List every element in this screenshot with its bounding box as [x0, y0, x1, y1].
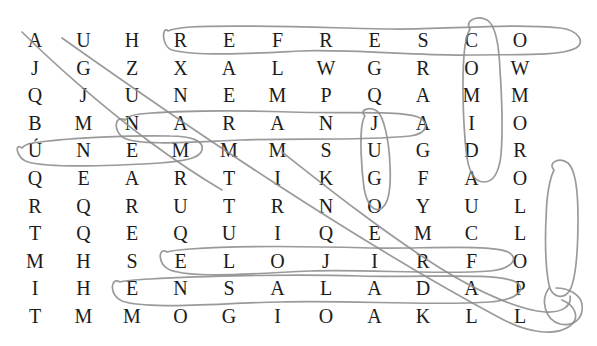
grid-letter: I	[358, 247, 392, 275]
grid-letter: O	[309, 302, 343, 330]
grid-letter: T	[212, 192, 246, 220]
grid-letter: P	[309, 81, 343, 109]
grid-letter: Q	[67, 219, 101, 247]
grid-letter: M	[406, 219, 440, 247]
grid-letter: E	[164, 247, 198, 275]
grid-letter: D	[406, 274, 440, 302]
grid-letter: E	[115, 136, 149, 164]
grid-letter: N	[164, 274, 198, 302]
grid-letter: I	[261, 164, 295, 192]
grid-letter: M	[67, 302, 101, 330]
grid-letter: F	[406, 164, 440, 192]
grid-letter: Q	[164, 219, 198, 247]
grid-row: MHSELOJIRFO	[0, 247, 597, 275]
grid-letter: A	[261, 274, 295, 302]
grid-letter: R	[406, 247, 440, 275]
grid-letter: E	[358, 219, 392, 247]
grid-letter: L	[503, 219, 537, 247]
grid-letter: M	[212, 136, 246, 164]
grid-letter: K	[406, 302, 440, 330]
grid-letter: U	[67, 26, 101, 54]
grid-letter: I	[261, 302, 295, 330]
grid-letter: I	[18, 274, 52, 302]
grid-letter: O	[503, 109, 537, 137]
grid-letter: H	[67, 247, 101, 275]
grid-letter: J	[358, 109, 392, 137]
grid-row: QEARTIKGFAO	[0, 164, 597, 192]
grid-letter: G	[67, 54, 101, 82]
grid-letter: M	[503, 81, 537, 109]
grid-letter: J	[18, 54, 52, 82]
grid-letter: E	[115, 219, 149, 247]
grid-row: IHENSALADAP	[0, 274, 597, 302]
grid-letter: L	[309, 274, 343, 302]
grid-letter: A	[18, 26, 52, 54]
grid-letter: E	[67, 164, 101, 192]
grid-letter: P	[503, 274, 537, 302]
grid-letter: U	[358, 136, 392, 164]
grid-row: JGZXALWGROW	[0, 54, 597, 82]
grid-letter: Z	[115, 54, 149, 82]
grid-letter: B	[18, 109, 52, 137]
grid-letter: A	[212, 54, 246, 82]
grid-letter: L	[503, 192, 537, 220]
grid-letter: J	[309, 247, 343, 275]
grid-letter: I	[261, 219, 295, 247]
grid-letter: F	[455, 247, 489, 275]
grid-letter: A	[358, 302, 392, 330]
grid-letter: N	[164, 81, 198, 109]
grid-letter: Ú	[18, 136, 52, 164]
grid-letter: T	[18, 219, 52, 247]
grid-letter: N	[309, 109, 343, 137]
grid-letter: M	[455, 81, 489, 109]
grid-letter: E	[358, 26, 392, 54]
grid-letter: E	[212, 26, 246, 54]
grid-letter: L	[503, 302, 537, 330]
grid-letter: N	[309, 192, 343, 220]
grid-letter: L	[212, 247, 246, 275]
grid-letter: O	[503, 26, 537, 54]
grid-letter: E	[115, 274, 149, 302]
grid-letter: R	[115, 192, 149, 220]
grid-letter: A	[455, 164, 489, 192]
grid-letter: U	[164, 192, 198, 220]
grid-row: QJUNEMPQAMM	[0, 81, 597, 109]
grid-letter: W	[503, 54, 537, 82]
grid-letter: S	[115, 247, 149, 275]
grid-letter: M	[115, 302, 149, 330]
grid-letter: R	[503, 136, 537, 164]
grid-letter: K	[309, 164, 343, 192]
grid-letter: O	[261, 247, 295, 275]
grid-letter: Q	[67, 192, 101, 220]
grid-letter: R	[261, 192, 295, 220]
grid-letter: C	[455, 219, 489, 247]
grid-letter: R	[164, 164, 198, 192]
grid-letter: M	[261, 136, 295, 164]
grid-letter: R	[164, 26, 198, 54]
grid-row: AUHREFRESCO	[0, 26, 597, 54]
grid-row: BMNARANJAIO	[0, 109, 597, 137]
grid-letter: S	[406, 26, 440, 54]
grid-letter: G	[358, 54, 392, 82]
grid-letter: A	[164, 109, 198, 137]
grid-letter: O	[358, 192, 392, 220]
grid-letter: M	[18, 247, 52, 275]
grid-letter: N	[115, 109, 149, 137]
grid-letter: X	[164, 54, 198, 82]
grid-letter: S	[309, 136, 343, 164]
grid-letter: T	[18, 302, 52, 330]
grid-letter: O	[455, 54, 489, 82]
grid-letter: M	[67, 109, 101, 137]
grid-letter: H	[67, 274, 101, 302]
grid-letter: Q	[309, 219, 343, 247]
grid-letter: F	[261, 26, 295, 54]
grid-letter: G	[212, 302, 246, 330]
grid-letter: D	[455, 136, 489, 164]
grid-letter: Q	[18, 164, 52, 192]
grid-letter: W	[309, 54, 343, 82]
grid-letter: S	[212, 274, 246, 302]
grid-row: TQEQUIQEMCL	[0, 219, 597, 247]
grid-letter: M	[164, 136, 198, 164]
grid-letter: U	[455, 192, 489, 220]
grid-letter: Q	[18, 81, 52, 109]
